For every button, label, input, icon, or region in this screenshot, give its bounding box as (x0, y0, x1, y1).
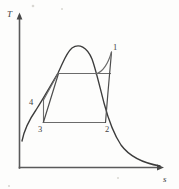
y-axis-arrowhead (17, 13, 23, 20)
state-label-3: 3 (38, 124, 42, 134)
label-group: T s 1 2 3 4 (7, 9, 167, 184)
paper-speck (117, 177, 119, 179)
x-axis-label: s (163, 174, 167, 184)
saturation-dome-group (22, 46, 160, 166)
y-axis-label: T (7, 9, 13, 19)
cycle-process-group (43, 52, 112, 123)
state-label-1: 1 (113, 42, 117, 52)
paper-speck (61, 8, 63, 10)
state-label-2: 2 (105, 124, 109, 134)
superheat-curve-to-1 (96, 52, 112, 74)
process-line-1-2 (106, 52, 112, 123)
paper-speck (32, 5, 35, 8)
axes-group (17, 13, 164, 171)
paper-speck (8, 185, 10, 187)
process-line-3-top (44, 74, 59, 123)
ts-diagram-canvas: T s 1 2 3 4 (0, 0, 179, 189)
ts-diagram-figure: T s 1 2 3 4 (0, 0, 179, 189)
vapor-dome-curve (22, 46, 160, 166)
state-label-4: 4 (29, 97, 34, 107)
